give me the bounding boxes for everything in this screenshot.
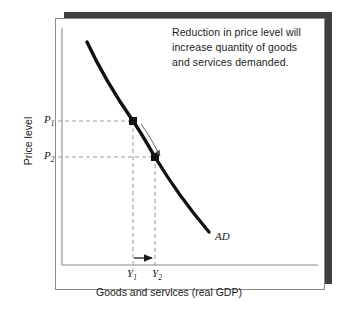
- caption-line-3: and services demanded.: [172, 56, 289, 68]
- y-tick-label-p1: P1: [44, 113, 54, 128]
- caption-line-1: Reduction in price level will: [172, 26, 301, 38]
- economics-figure: Reduction in price level will increase q…: [0, 0, 354, 312]
- x-tick-y2-subscript: 2: [158, 273, 162, 282]
- y-tick-p2-subscript: 2: [51, 155, 55, 164]
- y-tick-p2-base: P: [44, 149, 51, 161]
- y-tick-p1-subscript: 1: [51, 119, 55, 128]
- x-tick-y1-subscript: 1: [133, 273, 137, 282]
- x-tick-label-y2: Y2: [152, 267, 162, 282]
- y-tick-label-p2: P2: [44, 149, 54, 164]
- x-tick-label-y1: Y1: [127, 267, 137, 282]
- y-axis-label: Price level: [22, 101, 34, 181]
- x-axis-label: Goods and services (real GDP): [96, 286, 242, 298]
- y-tick-p1-base: P: [44, 113, 51, 125]
- ad-curve-label: AD: [215, 230, 230, 242]
- panel-shadow-right: [324, 12, 332, 284]
- caption-line-2: increase quantity of goods: [172, 41, 297, 53]
